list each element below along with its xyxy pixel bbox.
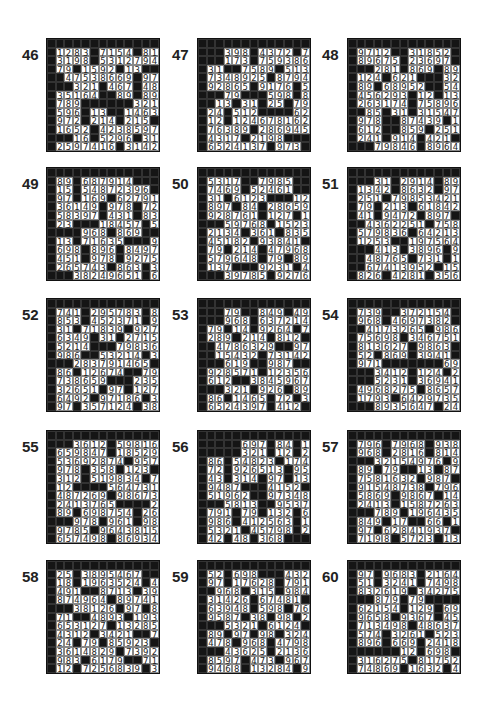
digit-cell: 8 (400, 116, 409, 125)
digit-cell: 8 (73, 245, 82, 254)
digit-cell: 1 (374, 604, 383, 613)
digit-cell: 4 (275, 638, 284, 647)
digit-cell: 5 (142, 116, 151, 125)
digit-cell: 7 (99, 402, 108, 411)
digit-cell: 6 (301, 508, 310, 517)
digit-cell: 7 (56, 308, 65, 317)
black-cell (116, 245, 125, 254)
black-cell (275, 168, 284, 177)
black-cell (365, 65, 374, 74)
black-cell (348, 316, 357, 325)
digit-cell: 6 (275, 185, 284, 194)
black-cell (47, 254, 56, 263)
black-cell (434, 359, 443, 368)
digit-cell: 5 (207, 177, 216, 186)
digit-cell: 7 (365, 570, 374, 579)
digit-cell: 3 (73, 604, 82, 613)
black-cell (374, 465, 383, 474)
black-cell (116, 142, 125, 151)
digit-cell: 1 (400, 500, 409, 509)
digit-cell: 5 (150, 621, 159, 630)
digit-cell: 9 (232, 308, 241, 317)
digit-cell: 2 (124, 56, 133, 65)
digit-cell: 3 (64, 237, 73, 246)
digit-cell: 4 (90, 613, 99, 622)
digit-cell: 9 (434, 116, 443, 125)
digit-cell: 8 (116, 263, 125, 272)
digit-cell: 8 (215, 517, 224, 526)
digit-cell: 3 (107, 578, 116, 587)
black-cell (241, 656, 250, 665)
digit-cell: 2 (250, 647, 259, 656)
black-cell (107, 491, 116, 500)
digit-cell: 5 (258, 73, 267, 82)
black-cell (293, 664, 302, 673)
black-cell (47, 664, 56, 673)
black-cell (107, 561, 116, 570)
black-cell (47, 483, 56, 492)
digit-cell: 1 (425, 108, 434, 117)
digit-cell: 7 (284, 578, 293, 587)
black-cell (275, 578, 284, 587)
digit-cell: 9 (293, 578, 302, 587)
digit-cell: 4 (374, 245, 383, 254)
digit-cell: 2 (107, 65, 116, 74)
digit-cell: 5 (64, 621, 73, 630)
digit-cell: 4 (284, 570, 293, 579)
digit-cell: 1 (451, 194, 460, 203)
digit-cell: 4 (207, 237, 216, 246)
digit-cell: 2 (284, 48, 293, 57)
digit-cell: 7 (425, 613, 434, 622)
black-cell (133, 402, 142, 411)
black-cell (408, 621, 417, 630)
black-cell (382, 168, 391, 177)
black-cell (215, 647, 224, 656)
digit-cell: 8 (357, 56, 366, 65)
digit-cell: 1 (116, 359, 125, 368)
digit-cell: 2 (142, 325, 151, 334)
digit-cell: 4 (250, 245, 259, 254)
digit-cell: 6 (124, 134, 133, 143)
digit-cell: 7 (357, 308, 366, 317)
digit-cell: 3 (124, 664, 133, 673)
black-cell (133, 508, 142, 517)
black-cell (400, 48, 409, 57)
digit-cell: 1 (434, 254, 443, 263)
black-cell (250, 91, 259, 100)
black-cell (301, 431, 310, 440)
digit-cell: 2 (224, 376, 233, 385)
digit-cell: 7 (365, 630, 374, 639)
digit-cell: 9 (56, 402, 65, 411)
black-cell (293, 299, 302, 308)
digit-cell: 9 (241, 359, 250, 368)
black-cell (198, 385, 207, 394)
digit-cell: 2 (284, 448, 293, 457)
digit-cell: 7 (207, 508, 216, 517)
digit-cell: 6 (90, 656, 99, 665)
digit-cell: 9 (81, 333, 90, 342)
digit-cell: 7 (207, 73, 216, 82)
black-cell (400, 39, 409, 48)
black-cell (107, 263, 116, 272)
black-cell (241, 376, 250, 385)
digit-cell: 6 (374, 271, 383, 280)
black-cell (293, 394, 302, 403)
black-cell (224, 39, 233, 48)
black-cell (47, 194, 56, 203)
black-cell (301, 483, 310, 492)
digit-cell: 1 (241, 385, 250, 394)
digit-cell: 7 (116, 202, 125, 211)
digit-cell: 6 (293, 376, 302, 385)
digit-cell: 9 (293, 465, 302, 474)
digit-cell: 8 (382, 228, 391, 237)
digit-cell: 1 (90, 108, 99, 117)
digit-cell: 6 (443, 142, 452, 151)
black-cell (408, 39, 417, 48)
digit-cell: 9 (391, 134, 400, 143)
black-cell (250, 561, 259, 570)
digit-cell: 5 (258, 526, 267, 535)
digit-cell: 3 (408, 483, 417, 492)
digit-cell: 8 (275, 116, 284, 125)
digit-cell: 9 (357, 448, 366, 457)
digit-cell: 2 (142, 99, 151, 108)
